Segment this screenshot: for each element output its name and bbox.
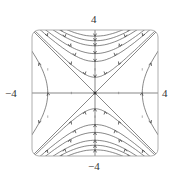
arrow-icon xyxy=(63,34,66,37)
arrow-icon xyxy=(114,53,117,56)
arrow-icon xyxy=(45,150,48,153)
arrow-icon xyxy=(142,150,145,153)
arrow-icon xyxy=(119,43,122,46)
trajectory-top xyxy=(0,0,178,62)
label-top: 4 xyxy=(91,14,97,25)
arrow-icon xyxy=(83,71,86,74)
trajectory-top xyxy=(0,0,178,36)
arrow-icon xyxy=(119,140,122,143)
arrow-icon xyxy=(118,122,121,125)
arrow-icon xyxy=(124,149,127,152)
label-bottom: −4 xyxy=(88,161,100,172)
arrow-icon xyxy=(68,43,71,46)
arrow-icon xyxy=(142,33,145,36)
arrow-icon xyxy=(73,53,76,56)
arrow-icon xyxy=(114,130,117,133)
trajectory-top xyxy=(0,0,178,46)
saddle-point xyxy=(94,92,97,95)
arrow-icon xyxy=(45,33,48,36)
plot-region xyxy=(0,0,178,179)
arrow-icon xyxy=(68,140,71,143)
arrow-icon xyxy=(63,149,66,152)
trajectory-right xyxy=(142,0,178,179)
arrow-icon xyxy=(83,112,86,115)
arrow-icon xyxy=(69,61,72,64)
phase-portrait xyxy=(0,0,178,179)
arrow-icon xyxy=(118,61,121,64)
label-left: −4 xyxy=(5,88,17,99)
label-right: 4 xyxy=(162,88,168,99)
arrow-icon xyxy=(104,71,107,74)
arrow-icon xyxy=(124,34,127,37)
arrow-icon xyxy=(104,112,107,115)
arrow-icon xyxy=(69,122,72,125)
arrow-icon xyxy=(73,130,76,133)
